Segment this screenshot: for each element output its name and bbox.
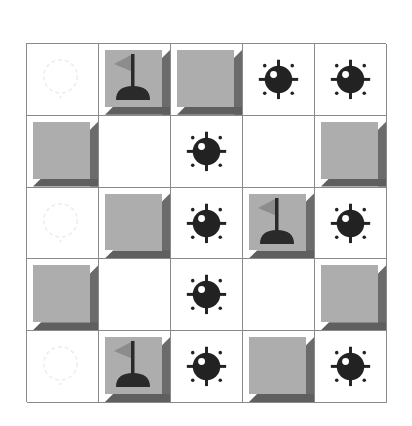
faint-mine-outline-icon — [27, 188, 98, 259]
tile-face — [177, 50, 234, 107]
board-cell-r1-c0[interactable] — [27, 116, 99, 188]
board-cell-r0-c4[interactable] — [315, 44, 387, 116]
board-cell-r3-c2[interactable] — [171, 259, 243, 331]
board-cell-r2-c4[interactable] — [315, 188, 387, 260]
board-cell-r0-c2[interactable] — [171, 44, 243, 116]
faint-mine-outline-icon — [27, 331, 98, 402]
minesweeper-board — [26, 43, 386, 402]
tile-bevel-right — [378, 122, 386, 187]
mine-icon — [171, 259, 242, 330]
mine-icon — [315, 331, 386, 402]
tile-face — [33, 265, 90, 322]
board-cell-r4-c0[interactable] — [27, 331, 99, 403]
flag-icon — [99, 44, 171, 116]
covered-tile — [177, 50, 242, 115]
board-cell-r4-c1[interactable] — [99, 331, 171, 403]
board-cell-r4-c3[interactable] — [243, 331, 315, 403]
flagged-tile — [105, 50, 170, 115]
covered-tile — [105, 194, 170, 259]
mine-icon — [171, 116, 242, 187]
board-cell-r1-c2[interactable] — [171, 116, 243, 188]
board-cell-r3-c0[interactable] — [27, 259, 99, 331]
board-cell-r4-c2[interactable] — [171, 331, 243, 403]
tile-bevel-bottom — [321, 322, 386, 330]
board-cell-r1-c4[interactable] — [315, 116, 387, 188]
tile-bevel-right — [90, 265, 98, 330]
tile-bevel-right — [90, 122, 98, 187]
mine-icon — [315, 188, 386, 259]
board-cell-r3-c4[interactable] — [315, 259, 387, 331]
flag-icon — [243, 188, 315, 260]
board-cell-r1-c1[interactable] — [99, 116, 171, 188]
covered-tile — [321, 122, 386, 187]
tile-bevel-right — [162, 194, 170, 259]
board-cell-r3-c1[interactable] — [99, 259, 171, 331]
tile-face — [105, 194, 162, 251]
board-cell-r2-c1[interactable] — [99, 188, 171, 260]
tile-bevel-right — [306, 337, 314, 402]
tile-bevel-bottom — [33, 322, 98, 330]
board-cell-r1-c3[interactable] — [243, 116, 315, 188]
board-cell-r4-c4[interactable] — [315, 331, 387, 403]
flagged-tile — [249, 194, 314, 259]
tile-bevel-bottom — [177, 107, 242, 115]
tile-face — [33, 122, 90, 179]
flag-icon — [99, 331, 171, 403]
mine-icon — [315, 44, 386, 115]
board-cell-r0-c3[interactable] — [243, 44, 315, 116]
mine-icon — [171, 188, 242, 259]
board-cell-r3-c3[interactable] — [243, 259, 315, 331]
board-cell-r2-c2[interactable] — [171, 188, 243, 260]
board-cell-r0-c0[interactable] — [27, 44, 99, 116]
tile-face — [321, 265, 378, 322]
board-cell-r2-c0[interactable] — [27, 188, 99, 260]
tile-bevel-bottom — [105, 250, 170, 258]
tile-bevel-bottom — [249, 394, 314, 402]
tile-bevel-right — [378, 265, 386, 330]
tile-face — [249, 337, 306, 394]
covered-tile — [33, 122, 98, 187]
mine-icon — [243, 44, 314, 115]
mine-icon — [171, 331, 242, 402]
covered-tile — [249, 337, 314, 402]
flagged-tile — [105, 337, 170, 402]
tile-bevel-bottom — [33, 179, 98, 187]
covered-tile — [33, 265, 98, 330]
board-cell-r0-c1[interactable] — [99, 44, 171, 116]
board-cell-r2-c3[interactable] — [243, 188, 315, 260]
faint-mine-outline-icon — [27, 44, 98, 115]
tile-bevel-bottom — [321, 179, 386, 187]
covered-tile — [321, 265, 386, 330]
tile-bevel-right — [234, 50, 242, 115]
tile-face — [321, 122, 378, 179]
